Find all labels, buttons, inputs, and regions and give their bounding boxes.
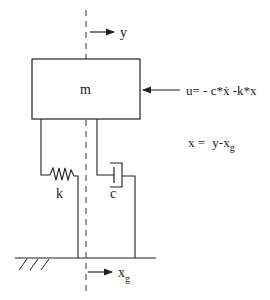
y-label: y (120, 25, 127, 40)
diagram-canvas: y m u= - c*ẋ -k*x x = y-xg k c xg (0, 0, 270, 300)
spring-label: k (56, 186, 63, 201)
ground-displacement-label: xg (118, 265, 130, 284)
ground-hatch (19, 259, 49, 270)
relative-displacement-equation: x = y-xg (188, 135, 235, 153)
damper-label: c (110, 186, 116, 201)
damper-rod (97, 119, 114, 175)
control-law-label: u= - c*ẋ -k*x (186, 83, 257, 98)
mass-label: m (80, 82, 91, 97)
damper-base-link (122, 176, 135, 258)
